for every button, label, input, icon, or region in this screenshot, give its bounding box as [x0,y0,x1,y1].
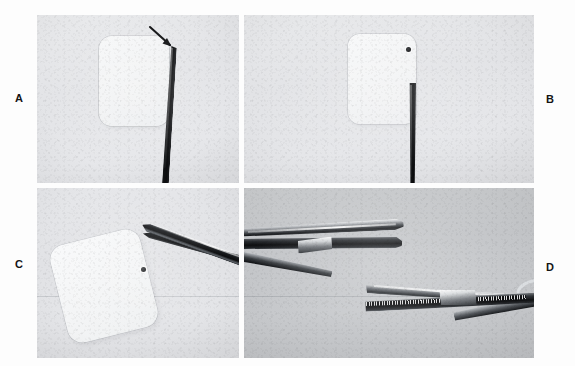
probe-highlight [410,85,412,177]
panel-d-film-grain [244,188,534,358]
marker-dot [406,47,411,52]
marker-dot [141,267,146,272]
forceps-upper-jaw [140,221,239,271]
panel-label-d: D [546,262,554,273]
arrow-annotation-icon [145,24,185,54]
panel-c-photo [37,188,239,358]
panel-label-b: B [546,94,554,105]
panel-d-vignette [244,188,534,358]
panel-d-photo [244,188,534,358]
panel-label-c: C [15,259,23,270]
figure-plate: A B C D [0,0,575,366]
panel-a-photo [37,15,239,183]
panel-b-photo [244,15,534,183]
smooth-clamp-shank [244,246,333,280]
membrane-patch [47,226,160,345]
panel-label-a: A [15,93,23,104]
